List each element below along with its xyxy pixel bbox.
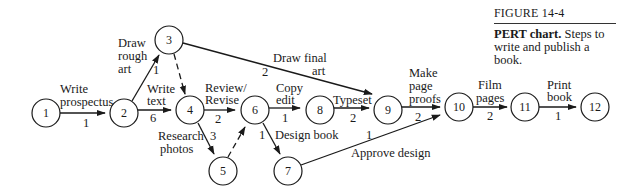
svg-text:art: art [312,64,326,78]
label-write-text: Write text 6 [147,82,175,125]
svg-text:Film: Film [478,78,502,92]
svg-text:Draw: Draw [118,36,146,50]
svg-text:3: 3 [166,33,172,47]
svg-text:8: 8 [317,103,323,117]
svg-text:photos: photos [160,142,193,156]
figure-number: FIGURE 14-4 [494,6,616,24]
svg-text:2: 2 [262,65,268,79]
label-make-page-proofs: Make page proofs 2 [409,66,441,124]
svg-text:6: 6 [150,111,156,125]
edge-5-6-dummy [228,127,245,157]
label-design-book: Design book 1 [259,128,339,142]
svg-text:Research: Research [158,129,205,143]
svg-text:Revise: Revise [205,93,239,107]
svg-text:3: 3 [210,129,216,143]
node-12: 12 [581,93,609,121]
svg-text:1: 1 [43,106,49,120]
svg-text:9: 9 [385,103,391,117]
svg-text:edit: edit [276,93,295,107]
label-print-book: Print book 1 [547,78,573,123]
figure-description: PERT chart. Steps to write and publish a… [494,28,616,67]
node-9: 9 [374,96,402,124]
node-11: 11 [511,93,539,121]
edge-3-4-dummy [174,54,185,94]
svg-text:Typeset: Typeset [333,93,372,107]
svg-text:5: 5 [220,164,226,178]
svg-text:6: 6 [252,103,258,117]
svg-text:Write: Write [60,82,88,96]
node-6: 6 [241,96,269,124]
label-write-prospectus: Write prospectus 1 [60,82,114,130]
node-2: 2 [110,99,138,127]
svg-text:1: 1 [555,109,561,123]
svg-text:1: 1 [282,111,288,125]
svg-text:Draw final: Draw final [273,51,327,65]
svg-text:12: 12 [589,100,601,114]
svg-text:page: page [409,79,433,93]
label-draw-final-art: Draw final art 2 [262,51,327,79]
svg-text:2: 2 [487,109,493,123]
svg-text:pages: pages [476,91,505,105]
node-5: 5 [209,157,237,185]
svg-text:2: 2 [350,111,356,125]
svg-text:1: 1 [366,128,372,142]
svg-text:prospectus: prospectus [60,95,114,109]
label-draw-rough-art: Draw rough art 1 [118,36,159,77]
svg-text:Make: Make [409,66,438,80]
svg-text:Design book: Design book [275,128,339,142]
label-film-pages: Film pages 2 [476,78,505,123]
figure-title: PERT chart. [494,27,561,41]
svg-text:2: 2 [415,110,421,124]
svg-text:4: 4 [187,103,193,117]
label-typeset: Typeset 2 [333,93,372,125]
svg-text:10: 10 [453,100,465,114]
svg-text:art: art [118,62,132,76]
svg-text:1: 1 [153,63,159,77]
node-8: 8 [306,96,334,124]
svg-text:text: text [147,94,166,108]
node-1: 1 [32,99,60,127]
svg-text:rough: rough [118,49,148,63]
svg-text:1: 1 [259,128,265,142]
svg-text:book: book [547,90,573,104]
node-3: 3 [155,26,183,54]
svg-text:2: 2 [121,106,127,120]
svg-text:1: 1 [83,116,89,130]
svg-text:proofs: proofs [409,92,441,106]
svg-text:11: 11 [519,100,531,114]
node-10: 10 [445,93,473,121]
node-7: 7 [274,157,302,185]
svg-text:2: 2 [215,112,221,126]
label-review-revise: Review/ Revise 2 [205,81,247,126]
figure-caption: FIGURE 14-4 PERT chart. Steps to write a… [494,6,616,67]
svg-text:Approve design: Approve design [351,146,431,160]
svg-text:7: 7 [285,164,291,178]
node-4: 4 [176,96,204,124]
label-copy-edit: Copy edit 1 [276,81,304,125]
